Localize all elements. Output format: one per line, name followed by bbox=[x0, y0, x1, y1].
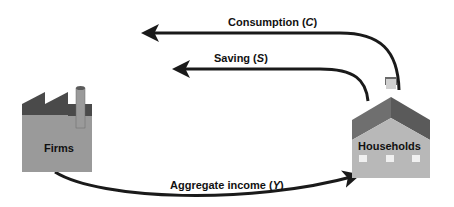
consumption-label-text: Consumption ( bbox=[228, 16, 306, 28]
saving-label: Saving (S) bbox=[214, 52, 268, 64]
income-label: Aggregate income (Y) bbox=[170, 179, 284, 191]
consumption-label-suffix: ) bbox=[314, 16, 318, 28]
saving-arrow bbox=[178, 69, 368, 101]
income-label-text: Aggregate income ( bbox=[170, 179, 273, 191]
house-icon bbox=[352, 77, 430, 178]
firms-label: Firms bbox=[44, 142, 74, 154]
factory-icon bbox=[22, 86, 92, 172]
households-label: Households bbox=[358, 140, 421, 152]
saving-label-text: Saving ( bbox=[214, 52, 257, 64]
consumption-symbol: C bbox=[306, 16, 314, 28]
circular-flow-diagram bbox=[0, 0, 454, 207]
income-label-suffix: ) bbox=[280, 179, 284, 191]
saving-label-suffix: ) bbox=[264, 52, 268, 64]
consumption-label: Consumption (C) bbox=[228, 16, 317, 28]
income-symbol: Y bbox=[273, 179, 280, 191]
